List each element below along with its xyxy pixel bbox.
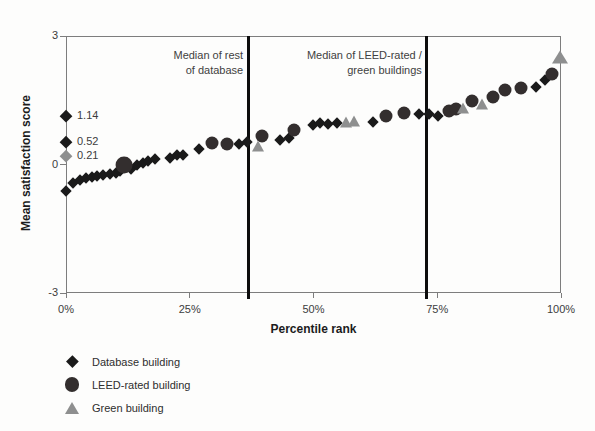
median-line [425, 36, 428, 299]
reference-value-label: 0.52 [77, 135, 98, 147]
y-axis-tick [60, 36, 66, 37]
triangle-data-point [552, 50, 568, 63]
annotation-line: Median of LEED-rated / [307, 48, 422, 63]
triangle-data-point [476, 99, 488, 110]
reference-marker [60, 109, 72, 121]
circle-marker-icon [56, 377, 88, 391]
reference-marker [60, 149, 72, 161]
x-axis-tick [437, 293, 438, 298]
triangle-data-point [457, 102, 469, 113]
x-tick-label: 100% [536, 303, 586, 315]
triangle-data-point [348, 115, 360, 126]
median-annotation-database: Median of rest of database [173, 48, 243, 78]
circle-data-point [380, 109, 393, 122]
chart-figure: Mean satisfaction score 30-30%25%50%75%1… [0, 0, 595, 431]
reference-value-label: 1.14 [77, 109, 98, 121]
diamond-data-point [367, 116, 378, 127]
reference-marker [60, 136, 72, 148]
diamond-data-point [193, 143, 204, 154]
diamond-data-point [531, 81, 542, 92]
circle-data-point [397, 107, 410, 120]
circle-data-point [221, 137, 234, 150]
circle-data-point [205, 137, 218, 150]
circle-data-point [498, 83, 511, 96]
x-axis-tick [561, 293, 562, 298]
median-annotation-leed-green: Median of LEED-rated / green buildings [307, 48, 422, 78]
circle-data-point [546, 67, 559, 80]
reference-value-label: 0.21 [77, 149, 98, 161]
legend-item-leed: LEED-rated building [56, 373, 190, 396]
legend-label: Green building [88, 402, 164, 414]
x-tick-label: 75% [412, 303, 462, 315]
y-tick-label: -3 [30, 286, 58, 298]
circle-data-point [116, 157, 133, 174]
x-tick-label: 25% [165, 303, 215, 315]
x-tick-label: 0% [41, 303, 91, 315]
circle-data-point [287, 124, 300, 137]
annotation-line: Median of rest [173, 48, 243, 63]
y-axis-tick [60, 164, 66, 165]
circle-data-point [514, 81, 527, 94]
x-tick-label: 50% [289, 303, 339, 315]
y-tick-label: 0 [30, 158, 58, 170]
x-axis-tick [313, 293, 314, 298]
median-line [247, 36, 250, 299]
triangle-marker-icon [56, 402, 88, 414]
legend-item-database: Database building [56, 350, 190, 373]
annotation-line: of database [173, 63, 243, 78]
x-axis-title: Percentile rank [66, 322, 561, 336]
legend-label: Database building [88, 356, 180, 368]
annotation-line: green buildings [307, 63, 422, 78]
chart-legend: Database building LEED-rated building Gr… [56, 350, 190, 419]
legend-item-green: Green building [56, 396, 190, 419]
y-tick-label: 3 [30, 29, 58, 41]
legend-label: LEED-rated building [88, 379, 190, 391]
x-axis-tick [189, 293, 190, 298]
triangle-data-point [252, 141, 264, 152]
diamond-marker-icon [56, 357, 88, 366]
x-axis-tick [66, 293, 67, 298]
diamond-data-point [60, 185, 71, 196]
